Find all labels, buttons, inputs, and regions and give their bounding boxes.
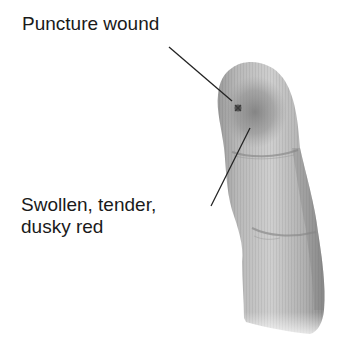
label-swollen-line-1: Swollen, tender, — [21, 194, 156, 216]
leader-line-puncture — [169, 47, 232, 101]
label-puncture-wound: Puncture wound — [22, 13, 159, 35]
label-swollen-line-2: dusky red — [21, 216, 156, 238]
finger-illustration — [0, 0, 345, 342]
swelling-area — [223, 76, 287, 148]
label-swollen-tender: Swollen, tender, dusky red — [21, 194, 156, 238]
puncture-wound-mark — [235, 105, 242, 112]
